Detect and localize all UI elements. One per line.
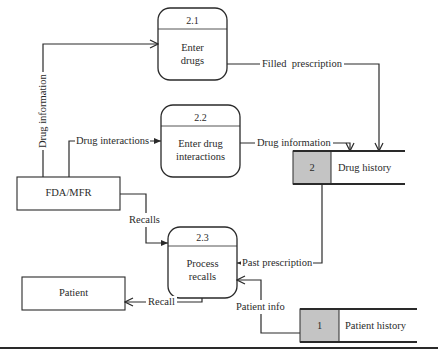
flow-label-recalls: Recalls [128, 213, 161, 227]
flow-label-recall: Recall [146, 296, 177, 308]
process-2-1-label-line1: Enter [158, 41, 227, 54]
process-2-3-label-line2: recalls [168, 270, 237, 283]
process-2-1-label-line2: drugs [158, 54, 227, 67]
flow-label-patient-info: Patient info [235, 300, 286, 314]
flow-label-drug-information-store: Drug information [255, 137, 333, 149]
process-2-2-label-line1: Enter drug [161, 137, 240, 150]
flow-drug-information-to-2-1 [43, 44, 158, 177]
datastore-drug-history-id: 2 [293, 162, 331, 173]
flow-label-filled-prescription: Filled prescription [260, 58, 344, 70]
flow-label-past-prescription: Past prescription [241, 257, 313, 269]
entity-fda-mfr: FDA/MFR [17, 187, 120, 198]
flow-label-drug-interactions: Drug interactions [75, 135, 150, 147]
process-2-3-label-line1: Process [168, 257, 237, 270]
datastore-drug-history-label: Drug history [338, 162, 391, 174]
process-2-2-label-line2: interactions [161, 150, 240, 163]
datastore-patient-history-label: Patient history [345, 320, 406, 332]
flow-past-prescription [237, 184, 322, 263]
flow-label-drug-information-vertical: Drug information [37, 72, 49, 150]
process-2-1-id: 2.1 [158, 15, 227, 26]
datastore-patient-history-id: 1 [300, 320, 339, 331]
process-2-2-id: 2.2 [161, 112, 240, 123]
entity-patient: Patient [22, 287, 125, 298]
process-2-3-label: Process recalls [168, 257, 237, 283]
process-2-1-label: Enter drugs [158, 41, 227, 67]
process-2-3-id: 2.3 [168, 232, 237, 243]
process-2-2-label: Enter drug interactions [161, 137, 240, 163]
